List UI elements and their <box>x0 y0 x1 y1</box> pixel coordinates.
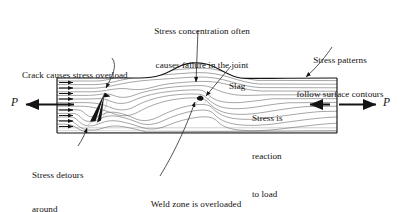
annotation-line: Stress concentration often <box>104 26 300 37</box>
annotation-line: around <box>32 204 136 212</box>
annotation-line: Weld zone is overloaded <box>128 199 264 210</box>
annotation-line: reaction <box>252 150 310 163</box>
annotation-line: Stress patterns <box>281 55 399 66</box>
load-label-left: P <box>11 96 18 108</box>
annotation-line: Stress is <box>252 112 310 125</box>
annotation-line: Stress detours <box>32 170 136 181</box>
annotation-line: Crack causes stress overload <box>22 70 202 81</box>
annotation-crack: Crack causes stress overload <box>22 48 202 104</box>
load-label-right: P <box>383 96 390 108</box>
figure-canvas: Stress concentration often causes failur… <box>0 0 402 212</box>
annotation-weld-zone: Weld zone is overloaded at the inclusion <box>128 177 264 212</box>
annotation-stress-detours: Stress detours around discontinuities <box>32 148 136 212</box>
